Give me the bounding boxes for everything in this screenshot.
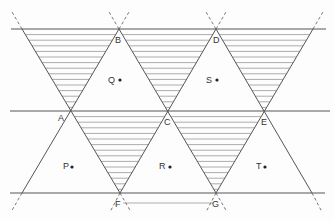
vertex-label-a: A (58, 113, 64, 123)
vertex-label-f: F (115, 199, 121, 209)
dashed-extension (216, 12, 226, 29)
point-r-dot (168, 165, 171, 168)
vertex-label-d: D (213, 35, 220, 45)
point-s-dot (215, 78, 218, 81)
dashed-extension (12, 12, 22, 29)
dashed-extension (120, 193, 131, 212)
dashed-extension (11, 193, 22, 212)
dashed-extension (312, 193, 322, 212)
point-q-dot (118, 78, 121, 81)
point-p-dot (70, 165, 73, 168)
dashed-extension (206, 12, 216, 29)
point-t-dot (263, 165, 266, 168)
diagram-svg: B D A C E F G Q S P R T (0, 0, 334, 220)
vertex-label-c: C (164, 117, 171, 127)
vertex-label-b: B (115, 35, 121, 45)
point-label-r: R (159, 161, 166, 171)
point-label-t: T (256, 161, 262, 171)
dashed-extension (313, 12, 323, 29)
dashed-extension (119, 12, 129, 29)
dashed-extension (109, 12, 119, 29)
vertex-label-e: E (261, 117, 267, 127)
point-label-s: S (206, 75, 212, 85)
vertex-label-g: G (212, 199, 219, 209)
point-label-q: Q (108, 75, 115, 85)
point-label-p: P (63, 161, 69, 171)
lattice-diagram: B D A C E F G Q S P R T (0, 0, 334, 220)
